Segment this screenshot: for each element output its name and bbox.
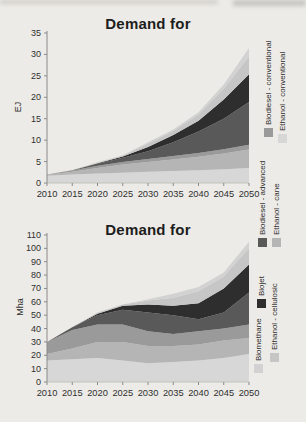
legend-label: Biodiesel - advanced — [258, 161, 267, 235]
x-tick-label: 2030 — [138, 189, 159, 199]
y-tick-label: 10 — [31, 364, 41, 374]
x-tick-label: 2040 — [188, 388, 209, 398]
y-tick-label: 35 — [31, 28, 41, 38]
legend-label: Ethanol - cane — [272, 183, 281, 235]
legend-item-biodiesel-conventional: Biodiesel - conventional — [262, 41, 274, 138]
scan-smudge — [0, 0, 218, 4]
y-tick-label: 50 — [31, 310, 41, 320]
legend-label: Biodiesel - conventional — [264, 41, 273, 126]
y-tick-label: 25 — [31, 71, 41, 81]
legend-swatch-biomethane — [254, 364, 263, 373]
scan-smudge — [233, 0, 306, 6]
y-tick-label: 20 — [31, 92, 41, 102]
legend-swatch-biojet — [257, 299, 266, 308]
x-tick-label: 2030 — [138, 388, 159, 398]
x-tick-label: 2020 — [87, 388, 108, 398]
legend-item-ethanol-conventional: Ethanol - conventional — [276, 52, 288, 143]
y-tick-label: 80 — [31, 270, 41, 280]
x-tick-label: 2010 — [37, 388, 58, 398]
legend-item-biodiesel-advanced: Biodiesel - advanced — [256, 161, 268, 247]
y-tick-label: 90 — [31, 257, 41, 267]
y-tick-label: 100 — [26, 243, 41, 253]
legend-item-ethanol-cellulosic: Ethanol - cellulosic — [268, 283, 280, 362]
x-tick-label: 2050 — [239, 388, 260, 398]
y-tick-label: 60 — [31, 297, 41, 307]
x-tick-label: 2015 — [62, 189, 83, 199]
x-tick-label: 2020 — [87, 189, 108, 199]
y-tick-label: 0 — [36, 178, 41, 188]
y-tick-label: 30 — [31, 337, 41, 347]
x-tick-label: 2045 — [213, 388, 234, 398]
legend-swatch-ethanol-conventional — [278, 134, 287, 143]
x-tick-label: 2035 — [163, 388, 184, 398]
y-tick-label: 30 — [31, 49, 41, 59]
y-tick-label: 110 — [27, 230, 41, 240]
legend-label: Ethanol - cellulosic — [270, 283, 279, 350]
y-tick-label: 20 — [31, 350, 41, 360]
x-tick-label: 2025 — [112, 388, 133, 398]
y-tick-label: 10 — [31, 135, 41, 145]
legend-swatch-biodiesel-conventional — [264, 128, 273, 137]
scanned-page: Demand for EJ 05101520253035201020152020… — [0, 0, 306, 422]
legend-swatch-ethanol-cane — [272, 238, 281, 247]
x-tick-label: 2015 — [62, 388, 83, 398]
y-tick-label: 70 — [31, 283, 41, 293]
y-tick-label: 0 — [36, 377, 41, 387]
legend-item-biojet: Biojet — [255, 276, 267, 308]
y-tick-label: 5 — [36, 157, 41, 167]
legend-label: Biojet — [257, 276, 266, 296]
y-tick-label: 15 — [31, 114, 41, 124]
legend-label: Biomethane — [254, 318, 263, 361]
x-tick-label: 2045 — [213, 189, 234, 199]
legend-item-biomethane: Biomethane — [252, 318, 264, 373]
legend-item-ethanol-cane: Ethanol - cane — [270, 183, 282, 247]
y-tick-label: 40 — [31, 324, 41, 334]
x-tick-label: 2035 — [163, 189, 184, 199]
legend-swatch-ethanol-cellulosic — [270, 353, 279, 362]
x-tick-label: 2025 — [112, 189, 133, 199]
legend-swatch-biodiesel-advanced — [258, 238, 267, 247]
x-tick-label: 2040 — [188, 189, 209, 199]
x-tick-label: 2010 — [37, 189, 58, 199]
legend-label: Ethanol - conventional — [278, 52, 287, 131]
